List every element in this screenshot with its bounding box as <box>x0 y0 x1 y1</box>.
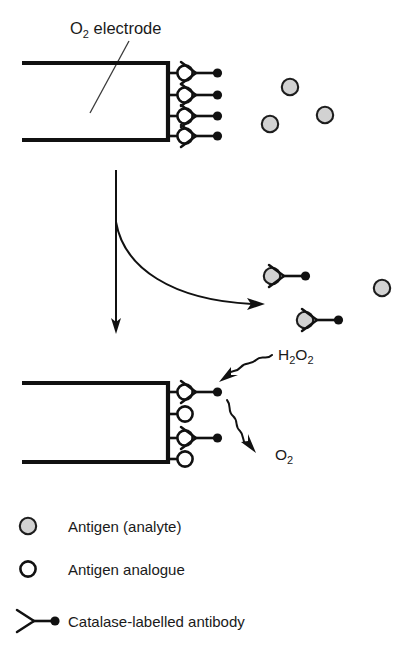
binding-site <box>168 84 222 106</box>
legend: Antigen (analyte) Antigen analogue Catal… <box>17 518 245 632</box>
electrode-body-bottom <box>22 383 168 462</box>
curved-flow-arrow <box>116 222 252 304</box>
o2-squiggle-arrow <box>227 400 246 444</box>
figure-canvas: O2 electrode <box>0 0 407 664</box>
competition-step <box>111 170 390 334</box>
binding-site <box>168 381 222 403</box>
legend-label: Antigen (analyte) <box>68 518 181 535</box>
antigen-analogue-icon <box>20 561 35 576</box>
antigen-analyte-icon <box>317 107 333 123</box>
binding-site <box>168 125 222 147</box>
binding-site <box>168 105 222 127</box>
binding-site <box>168 406 193 421</box>
legend-item-antigen-analyte: Antigen (analyte) <box>20 518 182 535</box>
immunoassay-figure: O2 electrode <box>0 0 407 664</box>
binding-site <box>168 427 222 449</box>
h2o2-squiggle-arrow <box>228 355 272 374</box>
antigen-antibody-complex <box>264 265 310 287</box>
legend-item-antigen-analogue: Antigen analogue <box>20 561 184 578</box>
antigen-antibody-complex <box>297 309 343 331</box>
catalase-labelled-antibody-icon <box>17 610 60 632</box>
legend-item-catalase-antibody: Catalase-labelled antibody <box>17 610 245 632</box>
electrode-body-top <box>22 63 168 140</box>
antigen-analyte-icon <box>20 518 36 534</box>
electrode-before-competition <box>22 62 333 147</box>
o2-label: O2 <box>275 446 293 466</box>
legend-label: Catalase-labelled antibody <box>68 613 245 630</box>
title-rest: electrode <box>89 19 161 37</box>
electrode-after-competition: H2O2 O2 <box>22 346 314 467</box>
h2o2-arrowhead <box>219 367 238 382</box>
antigen-analogue-icon <box>177 406 192 421</box>
binding-site <box>168 451 193 466</box>
title-o: O <box>70 19 83 37</box>
title-leader-line <box>90 41 129 113</box>
antigen-analyte-icon <box>374 280 390 296</box>
legend-label: Antigen analogue <box>68 561 185 578</box>
h2o2-label: H2O2 <box>278 346 314 366</box>
antigen-analyte-icon <box>282 79 298 95</box>
page-title: O2 electrode <box>70 19 161 40</box>
antigen-analyte-icon <box>262 116 278 132</box>
svg-text:O2 electrode: O2 electrode <box>70 19 161 40</box>
binding-site <box>168 62 222 84</box>
antigen-analogue-icon <box>177 451 192 466</box>
